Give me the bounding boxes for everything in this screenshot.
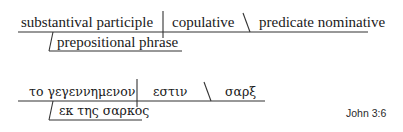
example-subject-label: το γεγεννημενον [29, 86, 135, 99]
example-modifier-slant [49, 101, 53, 120]
example-modifier-label: εκ της σαρκος [59, 105, 149, 118]
template-modifier-slant [49, 32, 53, 51]
template-subject-label: substantival participle [21, 15, 153, 30]
scripture-reference: John 3:6 [346, 108, 386, 119]
template-verb-label: copulative [172, 15, 234, 30]
example-predicate-divider [204, 82, 211, 101]
template-predicate-label: predicate nominative [259, 15, 385, 30]
example-verb-label: εστιν [153, 86, 187, 99]
template-modifier-label: prepositional phrase [57, 35, 178, 50]
template-predicate-divider [243, 13, 250, 32]
example-predicate-label: σαρξ [225, 86, 256, 99]
